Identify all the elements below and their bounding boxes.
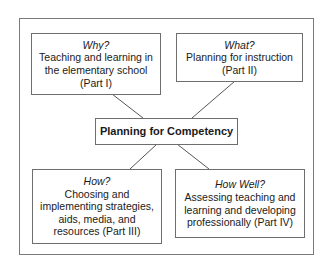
box-question: How? xyxy=(84,175,111,188)
box-line: the elementary school xyxy=(45,64,148,77)
box-question: Why? xyxy=(83,39,110,52)
box-line: Planning for instruction xyxy=(186,51,293,64)
box-question: How Well? xyxy=(215,178,265,191)
box-line: learning and developing xyxy=(184,204,296,217)
connector-how-well xyxy=(177,144,209,169)
connector-what xyxy=(192,81,235,118)
box-line: (Part II) xyxy=(222,64,257,77)
connector-how xyxy=(130,144,157,169)
box-line: professionally (Part IV) xyxy=(187,216,293,229)
box-line: implementing strategies, xyxy=(40,200,154,213)
center-box: Planning for Competency xyxy=(95,118,238,145)
box-line: (Part I) xyxy=(80,77,112,90)
box-line: Assessing teaching and xyxy=(185,191,296,204)
center-label: Planning for Competency xyxy=(100,125,233,138)
box-why: Why? Teaching and learning in the elemen… xyxy=(31,33,161,95)
box-question: What? xyxy=(224,39,254,52)
box-line: Choosing and xyxy=(65,188,130,201)
box-line: resources (Part III) xyxy=(54,225,141,238)
box-line: aids, media, and xyxy=(58,213,135,226)
connector-why xyxy=(112,94,143,118)
box-how: How? Choosing and implementing strategie… xyxy=(32,169,162,244)
box-how-well: How Well? Assessing teaching and learnin… xyxy=(175,169,305,238)
box-line: Teaching and learning in xyxy=(39,51,153,64)
box-what: What? Planning for instruction (Part II) xyxy=(176,33,303,82)
